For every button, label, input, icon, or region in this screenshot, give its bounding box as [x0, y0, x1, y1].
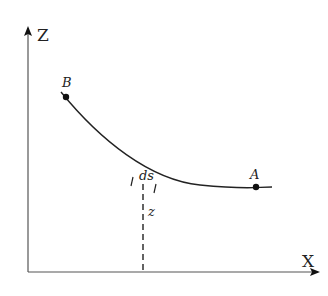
ds-tick-left	[131, 177, 133, 186]
point-b-label: B	[61, 75, 72, 90]
ds-tick-right	[154, 184, 156, 193]
curve-b-to-a	[61, 92, 272, 188]
z-height-label: z	[147, 204, 155, 219]
ds-label: ds	[139, 168, 154, 183]
point-a-marker	[253, 184, 259, 190]
point-a-label: A	[249, 167, 259, 182]
diagram-canvas: Z X B A ds z	[0, 0, 328, 296]
z-axis-label: Z	[37, 25, 49, 45]
x-axis-label: X	[302, 251, 315, 271]
point-b-marker	[63, 94, 69, 100]
